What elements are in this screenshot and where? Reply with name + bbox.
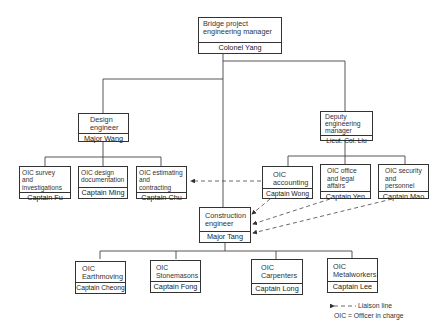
officer-name: Captain Fong [151, 281, 200, 292]
box-accounting: OIC accounting Captain Wong [262, 166, 313, 199]
role-title: Construction engineer [200, 208, 250, 231]
box-bridge-project-manager: Bridge project engineering manager Colon… [198, 17, 282, 54]
role-title: OIC Metalworkers [328, 259, 377, 281]
role-title: OIC Stonemasons [151, 261, 200, 281]
role-title: OIC Earthmoving [76, 262, 125, 282]
role-title: OIC accounting [263, 167, 312, 188]
box-survey-investigations: OIC survey and investigations Captain Fu [19, 166, 71, 199]
box-earthmoving: OIC Earthmoving Captain Cheong [75, 261, 126, 294]
role-title: OIC estimating and contracting [137, 167, 186, 192]
officer-name: Captain Lee [328, 281, 377, 292]
officer-name: Captain Chu [137, 192, 186, 203]
box-estimating-contracting: OIC estimating and contracting Captain C… [136, 166, 187, 199]
legend-liaison-line: Liaison line [358, 302, 392, 309]
role-title: OIC survey and investigations [20, 167, 70, 192]
officer-name: Captain Cheong [76, 282, 125, 293]
officer-name: Major Wang [79, 133, 128, 144]
box-construction-engineer: Construction engineer Major Tang [199, 207, 251, 243]
box-security-personnel: OIC security and personnel Captain Mao [378, 164, 429, 199]
box-stonemasons: OIC Stonemasons Captain Fong [150, 260, 201, 293]
role-title: Design engineer [79, 114, 128, 133]
officer-name: Captain Ming [79, 187, 127, 198]
officer-name: Colonel Yang [199, 42, 281, 53]
role-title: OIC office and legal affairs [321, 165, 370, 191]
role-title: OIC Carpenters [252, 260, 302, 283]
role-title: OIC design documentation [79, 167, 127, 187]
officer-name: Captain Long [252, 283, 302, 294]
box-office-legal-affairs: OIC office and legal affairs Captain Yen [320, 164, 371, 199]
officer-name: Captain Mao [379, 191, 428, 202]
box-metalworkers: OIC Metalworkers Captain Lee [327, 258, 378, 293]
officer-name: Lieut. Col. Liu [321, 135, 372, 145]
legend-oic-definition: OIC = Officer in charge [334, 312, 404, 319]
box-carpenters: OIC Carpenters Captain Long [251, 259, 303, 295]
officer-name: Major Tang [200, 231, 250, 242]
box-design-documentation: OIC design documentation Captain Ming [78, 166, 128, 199]
role-title: OIC security and personnel [379, 165, 428, 191]
officer-name: Captain Fu [20, 192, 70, 203]
officer-name: Captain Wong [263, 188, 312, 199]
box-deputy-engineering-manager: Deputy engineering manager Lieut. Col. L… [320, 111, 373, 141]
officer-name: Captain Yen [321, 191, 370, 202]
role-title: Bridge project engineering manager [199, 18, 281, 42]
box-design-engineer: Design engineer Major Wang [78, 113, 129, 142]
role-title: Deputy engineering manager [321, 112, 372, 135]
